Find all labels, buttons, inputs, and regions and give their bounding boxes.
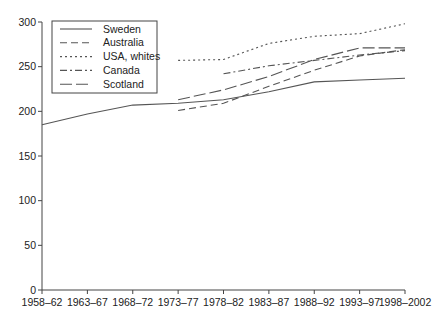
y-tick-label: 200 xyxy=(18,105,36,117)
x-tick-label: 1978–82 xyxy=(203,296,244,308)
x-tick-label: 1983–87 xyxy=(248,296,289,308)
x-tick-label: 1988–92 xyxy=(294,296,335,308)
x-tick-label: 1973–77 xyxy=(158,296,199,308)
y-tick-label: 50 xyxy=(24,239,36,251)
legend-label: Scotland xyxy=(103,78,144,90)
y-tick-label: 150 xyxy=(18,150,36,162)
x-tick-label: 1963–67 xyxy=(67,296,108,308)
line-chart: 0501001502002503001958–621963–671968–721… xyxy=(0,0,444,325)
x-tick-label: 1993–97 xyxy=(339,296,380,308)
legend-label: Canada xyxy=(103,64,140,76)
x-tick-label: 1958–62 xyxy=(22,296,63,308)
y-tick-label: 250 xyxy=(18,60,36,72)
chart-canvas: 0501001502002503001958–621963–671968–721… xyxy=(0,0,444,325)
legend-label: Sweden xyxy=(103,23,141,35)
series-line-scotland xyxy=(178,48,405,100)
y-tick-label: 300 xyxy=(18,16,36,28)
y-tick-label: 0 xyxy=(30,284,36,296)
legend-label: USA, whites xyxy=(103,50,160,62)
legend-label: Australia xyxy=(103,36,144,48)
x-tick-label: 1968–72 xyxy=(112,296,153,308)
x-tick-label: 1998–2002 xyxy=(379,296,432,308)
legend: SwedenAustraliaUSA, whitesCanadaScotland xyxy=(52,21,160,93)
series-line-canada xyxy=(224,51,406,74)
y-tick-label: 100 xyxy=(18,194,36,206)
